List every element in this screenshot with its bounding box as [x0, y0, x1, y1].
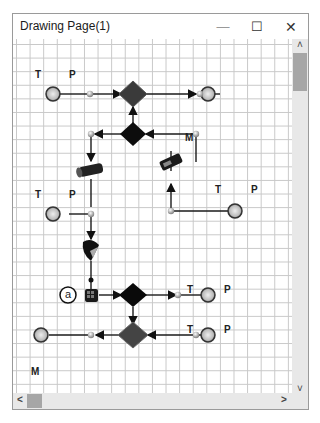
- scroll-left-arrow-icon[interactable]: <: [13, 394, 27, 405]
- label-t4: T: [187, 284, 193, 295]
- label-t2: T: [35, 189, 41, 200]
- close-button[interactable]: ✕: [274, 14, 308, 39]
- scroll-up-arrow-icon[interactable]: ˄: [293, 39, 307, 50]
- stream-icons: [34, 87, 242, 342]
- horizontal-scrollbar[interactable]: < >: [13, 393, 293, 409]
- label-m2: M: [31, 366, 39, 377]
- window-title: Drawing Page(1): [20, 19, 110, 33]
- label-p5: P: [224, 324, 231, 335]
- label-p2: P: [69, 189, 76, 200]
- label-t3: T: [215, 184, 221, 195]
- label-m1: M: [185, 132, 193, 143]
- label-p3: P: [251, 184, 258, 195]
- minimize-button[interactable]: —: [206, 14, 240, 39]
- drawing-canvas[interactable]: a T P M T P T P T P T P M: [13, 39, 293, 394]
- flowsheet-diagram: [13, 39, 293, 394]
- label-t5: T: [187, 324, 193, 335]
- vertical-scroll-thumb[interactable]: [293, 53, 307, 91]
- title-bar[interactable]: Drawing Page(1) — ☐ ✕: [13, 14, 308, 39]
- label-t1: T: [35, 69, 41, 80]
- drawing-page-window: Drawing Page(1) — ☐ ✕: [12, 13, 309, 410]
- label-p1: P: [69, 69, 76, 80]
- scrollbar-corner: [292, 393, 308, 409]
- horizontal-scroll-thumb[interactable]: [27, 394, 42, 408]
- scroll-right-arrow-icon[interactable]: >: [277, 394, 291, 405]
- maximize-button[interactable]: ☐: [240, 14, 274, 39]
- label-p4: P: [224, 284, 231, 295]
- vertical-scrollbar[interactable]: ˄ ˅: [292, 39, 308, 394]
